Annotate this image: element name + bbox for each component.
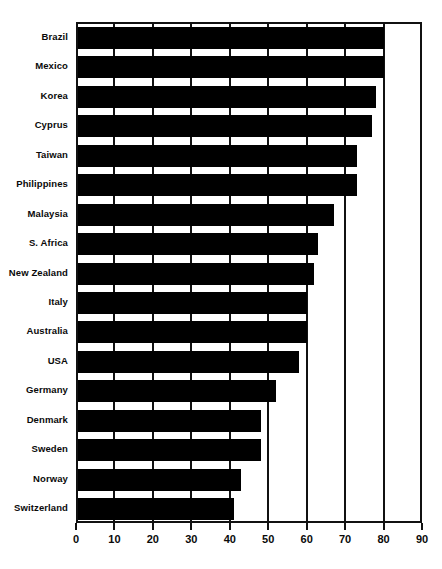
bar (78, 498, 234, 520)
gridline (383, 24, 385, 521)
category-label: Korea (0, 91, 68, 101)
category-label: Philippines (0, 179, 68, 189)
x-tick (421, 523, 423, 530)
x-tick (383, 523, 385, 530)
x-tick-label: 60 (292, 533, 322, 545)
x-tick-label: 10 (99, 533, 129, 545)
bar (78, 469, 241, 491)
category-label: Denmark (0, 415, 68, 425)
category-label: Cyprus (0, 120, 68, 130)
x-tick-label: 30 (176, 533, 206, 545)
bar (78, 204, 334, 226)
x-tick (113, 523, 115, 530)
category-label: Australia (0, 326, 68, 336)
category-label: S. Africa (0, 238, 68, 248)
x-tick (229, 523, 231, 530)
x-tick (190, 523, 192, 530)
x-tick (75, 523, 77, 530)
plot-area (76, 22, 422, 523)
bar (78, 233, 318, 255)
bar (78, 410, 261, 432)
category-label: New Zealand (0, 268, 68, 278)
x-tick (267, 523, 269, 530)
x-tick (152, 523, 154, 530)
category-label: Taiwan (0, 150, 68, 160)
bar (78, 115, 372, 137)
x-tick-label: 80 (369, 533, 399, 545)
category-label: Italy (0, 297, 68, 307)
bar (78, 145, 357, 167)
bar (78, 263, 314, 285)
x-tick-label: 0 (61, 533, 91, 545)
category-label: Switzerland (0, 503, 68, 513)
bar (78, 27, 384, 49)
category-label: Germany (0, 385, 68, 395)
bar (78, 174, 357, 196)
bar-chart: BrazilMexicoKoreaCyprusTaiwanPhilippines… (0, 0, 442, 569)
category-label: Mexico (0, 61, 68, 71)
bar (78, 292, 307, 314)
bar (78, 380, 276, 402)
bar (78, 321, 307, 343)
x-tick-label: 50 (253, 533, 283, 545)
x-axis-line (76, 521, 422, 523)
bar (78, 351, 299, 373)
x-tick-label: 40 (215, 533, 245, 545)
bar (78, 439, 261, 461)
bar (78, 86, 376, 108)
x-tick-label: 90 (407, 533, 437, 545)
x-tick (306, 523, 308, 530)
category-label: Sweden (0, 444, 68, 454)
category-label: USA (0, 356, 68, 366)
category-axis-labels: BrazilMexicoKoreaCyprusTaiwanPhilippines… (0, 22, 72, 523)
category-label: Malaysia (0, 209, 68, 219)
bar (78, 56, 384, 78)
x-tick (344, 523, 346, 530)
category-label: Brazil (0, 32, 68, 42)
x-tick-label: 70 (330, 533, 360, 545)
x-tick-label: 20 (138, 533, 168, 545)
category-label: Norway (0, 474, 68, 484)
